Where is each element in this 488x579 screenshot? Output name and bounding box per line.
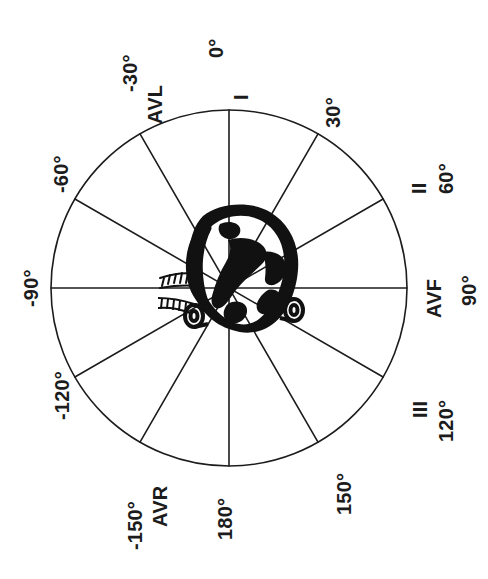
heart-illustration: [158, 198, 318, 348]
lead-label-I: I: [231, 94, 251, 100]
angle-label-60: 60°: [436, 163, 456, 194]
angle-label-90: 90°: [459, 275, 479, 306]
lead-label-III: III: [410, 401, 430, 418]
hexaxial-figure: 0° 30° 60° 90° 120° 150° 180° -150° -120…: [0, 0, 488, 579]
angle-label-180: 180°: [215, 498, 235, 540]
heart-icon: [158, 198, 318, 348]
angle-label-150: 150°: [334, 473, 354, 515]
angle-label-minus120: -120°: [52, 371, 72, 420]
angle-label-minus30: -30°: [120, 54, 140, 92]
angle-label-minus90: -90°: [21, 269, 41, 307]
angle-label-minus150: -150°: [125, 501, 145, 550]
angle-label-minus60: -60°: [51, 155, 71, 193]
angle-label-0: 0°: [206, 38, 226, 58]
lead-label-AVL: AVL: [145, 85, 165, 124]
angle-label-120: 120°: [436, 400, 456, 442]
lead-label-II: II: [409, 182, 429, 194]
lead-label-AVR: AVR: [150, 486, 170, 527]
angle-label-30: 30°: [323, 97, 343, 128]
lead-label-AVF: AVF: [424, 279, 444, 318]
